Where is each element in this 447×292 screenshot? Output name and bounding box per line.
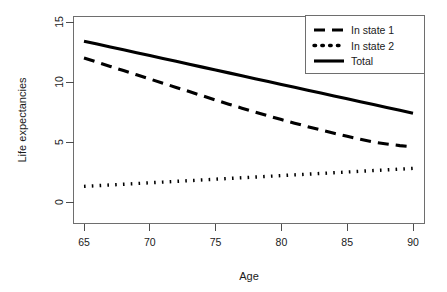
x-tick-label: 65 (78, 236, 90, 248)
x-axis-label: Age (239, 270, 259, 282)
x-tick-label: 75 (210, 236, 222, 248)
y-tick-label: 15 (53, 16, 65, 28)
x-tick-label: 85 (341, 236, 353, 248)
legend-label-2: In state 2 (351, 40, 394, 52)
y-tick-label: 5 (53, 139, 65, 145)
line-chart: 051015 657075808590 Age Life expectancie… (0, 0, 447, 292)
y-axis-ticks: 051015 (53, 16, 74, 205)
y-tick-label: 10 (53, 76, 65, 88)
x-tick-label: 80 (276, 236, 288, 248)
legend-label-1: In state 1 (351, 24, 394, 36)
x-tick-label: 70 (144, 236, 156, 248)
y-axis-label: Life expectancies (16, 77, 28, 162)
chart-figure: 051015 657075808590 Age Life expectancie… (0, 0, 447, 292)
legend-label-3: Total (351, 55, 373, 67)
x-tick-label: 90 (407, 236, 419, 248)
chart-legend: In state 1In state 2Total (306, 16, 425, 74)
x-axis-ticks: 657075808590 (78, 224, 419, 249)
series-line-2 (84, 168, 413, 186)
y-tick-label: 0 (53, 199, 65, 205)
